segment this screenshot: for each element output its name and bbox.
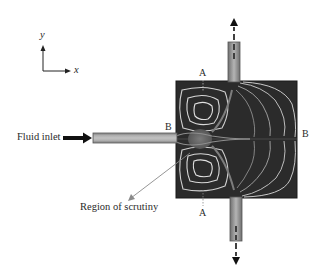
region-of-scrutiny-label: Region of scrutiny [80, 202, 158, 213]
y-axis-label: y [40, 30, 45, 41]
diagram-canvas: y x Fluid inlet Region of scrutiny A A B… [0, 0, 325, 272]
section-b-left-label: B [165, 122, 172, 132]
axes-icon [41, 45, 72, 74]
inlet-pipe [93, 133, 177, 143]
outlet-up-arrow-icon [230, 18, 238, 40]
bottom-outlet-pipe [230, 197, 242, 241]
section-a-bottom-label: A [199, 208, 206, 218]
chamber [176, 81, 297, 198]
fluid-inlet-label: Fluid inlet [17, 132, 60, 143]
section-b-right-label: B [302, 129, 309, 139]
outlet-down-arrow-icon [232, 243, 240, 265]
section-a-top-label: A [199, 68, 206, 78]
x-axis-label: x [74, 65, 79, 76]
inlet-arrow-icon [63, 133, 92, 144]
top-outlet-pipe [228, 42, 240, 82]
